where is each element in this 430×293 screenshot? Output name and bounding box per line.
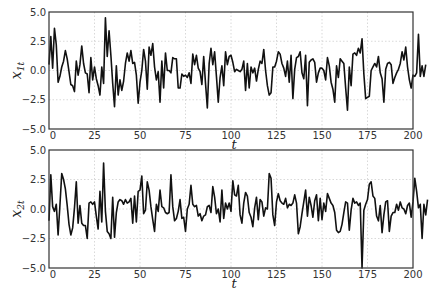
y-axis-label: x2t bbox=[8, 200, 26, 218]
x-tick-label: 150 bbox=[312, 269, 331, 280]
y-axis-label-main: x bbox=[8, 210, 24, 218]
series-line-x2t bbox=[49, 163, 428, 268]
y-tick-label: 0.0 bbox=[30, 204, 46, 215]
y-tick-label: 5.0 bbox=[30, 145, 46, 156]
x-tick-label: 150 bbox=[312, 130, 331, 141]
y-tick-label: −2.5 bbox=[22, 94, 46, 105]
x-tick-label: 75 bbox=[179, 269, 192, 280]
y-tick-label: 2.5 bbox=[30, 36, 46, 47]
bottom-panel-x2t: 5.02.50.0−2.5−5.00255075100125150175200t… bbox=[8, 145, 428, 292]
x-tick-label: 50 bbox=[134, 269, 147, 280]
x-tick-label: 25 bbox=[88, 269, 101, 280]
top-panel-x1t: 5.02.50.0−2.5−5.00255075100125150175200t… bbox=[8, 7, 426, 153]
y-tick-label: 2.5 bbox=[30, 174, 46, 185]
y-axis-label-subscript: 2t bbox=[16, 200, 26, 211]
x-tick-label: 25 bbox=[88, 130, 101, 141]
x-tick-label: 0 bbox=[50, 130, 56, 141]
x-tick-label: 175 bbox=[358, 269, 377, 280]
x-axis-label: t bbox=[231, 276, 237, 291]
figure: 5.02.50.0−2.5−5.00255075100125150175200t… bbox=[0, 0, 430, 293]
x-tick-label: 125 bbox=[267, 130, 286, 141]
x-tick-label: 75 bbox=[179, 130, 192, 141]
x-tick-label: 0 bbox=[50, 269, 56, 280]
x-tick-label: 200 bbox=[403, 130, 422, 141]
y-axis-label: x1t bbox=[8, 61, 26, 79]
y-axis-label-subscript: 1t bbox=[16, 61, 26, 71]
y-tick-label: −5.0 bbox=[22, 263, 46, 274]
y-tick-label: 0.0 bbox=[30, 65, 46, 76]
x-tick-label: 200 bbox=[403, 269, 422, 280]
y-tick-label: 5.0 bbox=[30, 7, 46, 18]
y-tick-label: −2.5 bbox=[22, 233, 46, 244]
x-tick-label: 175 bbox=[358, 130, 377, 141]
y-axis-label-main: x bbox=[8, 71, 24, 79]
x-tick-label: 125 bbox=[267, 269, 286, 280]
series-line-x1t bbox=[49, 18, 426, 110]
y-tick-label: −5.0 bbox=[22, 124, 46, 135]
x-tick-label: 50 bbox=[134, 130, 147, 141]
